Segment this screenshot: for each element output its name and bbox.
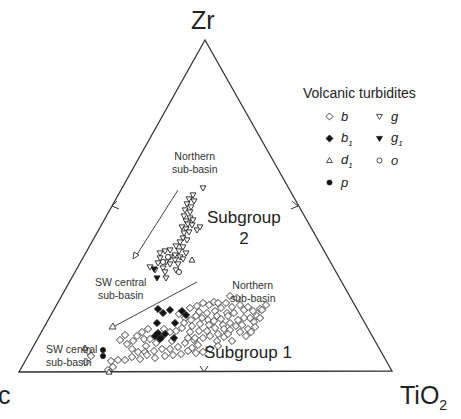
data-point-b <box>114 356 121 363</box>
data-point-g <box>181 214 187 219</box>
data-point-g <box>167 262 173 267</box>
data-point-b <box>151 354 158 361</box>
data-point-g <box>200 186 206 191</box>
legend-label: g1 <box>391 130 403 148</box>
data-point-g <box>187 210 193 215</box>
arrowhead-icon <box>109 323 116 329</box>
data-point-b <box>128 353 135 360</box>
data-point-p <box>100 353 105 358</box>
data-point-b <box>121 331 128 338</box>
legend-item-g: g <box>375 109 425 124</box>
legend-item-o: o <box>375 153 425 168</box>
data-point-b <box>150 347 157 354</box>
open-diamond-icon <box>325 112 334 121</box>
open-triangle-down-icon <box>375 112 384 121</box>
legend-label: b1 <box>341 130 353 148</box>
trend-arrow-subgroup2-line <box>136 190 178 256</box>
legend-label: p <box>341 175 348 190</box>
data-point-b1 <box>153 319 160 326</box>
data-point-b <box>161 352 168 359</box>
data-point-b <box>158 345 165 352</box>
data-point-b <box>121 356 128 363</box>
vertex-label-top: Zr <box>191 8 215 33</box>
legend-title: Volcanic turbidites <box>303 85 461 101</box>
data-point-o <box>165 254 170 259</box>
legend-label: b <box>341 109 348 124</box>
legend-item-b: b <box>325 109 375 124</box>
vertex-label-right: TiO2 <box>400 383 447 412</box>
vertex-label-right-main: TiO <box>400 381 439 409</box>
legend-item-d1: d1 <box>325 153 375 168</box>
annotation-line: Northern <box>172 150 218 163</box>
legend-item-b1: b1 <box>325 131 375 146</box>
legend-item-g1: g1 <box>375 131 425 146</box>
open-triangle-up-icon <box>325 156 334 165</box>
subgroup-1-label: Subgroup 1 <box>204 342 292 363</box>
data-point-b <box>116 336 123 343</box>
left-edge-tick <box>112 201 119 209</box>
data-point-o <box>176 269 181 274</box>
data-point-g <box>173 244 179 249</box>
annotation-northern-lower: Northern sub-basin <box>230 279 276 305</box>
data-point-b <box>199 334 206 341</box>
ternary-diagram: Zr c TiO2 Northern sub-basin SW central … <box>0 0 461 419</box>
data-point-b <box>203 309 210 316</box>
annotation-line: sub-basin <box>46 356 97 369</box>
annotation-line: Northern <box>230 279 276 292</box>
vertex-label-right-sub: 2 <box>439 397 447 413</box>
data-point-b <box>222 299 229 306</box>
subgroup-2-line2: 2 <box>207 228 281 249</box>
data-point-g <box>175 262 181 267</box>
subgroup-2-label: Subgroup 2 <box>207 207 281 249</box>
data-point-g <box>162 270 168 275</box>
data-point-b <box>136 355 143 362</box>
legend-item-p: p <box>325 175 375 190</box>
data-point-b <box>236 328 243 335</box>
data-point-g <box>191 199 197 204</box>
data-point-b <box>186 304 193 311</box>
annotation-line: sub-basin <box>230 292 276 305</box>
data-point-p <box>100 347 105 352</box>
data-point-b <box>174 343 181 350</box>
data-point-o <box>160 259 165 264</box>
open-circle-icon <box>375 156 384 165</box>
filled-triangle-down-icon <box>375 134 384 143</box>
annotation-line: SW central <box>95 276 146 289</box>
annotation-line: SW central <box>46 343 97 356</box>
legend: Volcanic turbidites bgb1g1d1op <box>303 85 461 190</box>
annotation-northern-upper: Northern sub-basin <box>172 150 218 176</box>
data-point-g <box>189 223 195 228</box>
data-point-g <box>183 251 189 256</box>
annotation-sw-central-lower: SW central sub-basin <box>46 343 97 369</box>
filled-circle-icon <box>325 178 334 187</box>
data-point-b <box>195 327 202 334</box>
legend-entries: bgb1g1d1op <box>325 109 461 190</box>
data-point-g <box>180 257 186 262</box>
data-point-d1 <box>189 257 195 262</box>
data-point-b1 <box>171 319 178 326</box>
data-point-g1 <box>154 276 160 281</box>
legend-label: o <box>391 153 398 168</box>
legend-label: g <box>391 109 398 124</box>
vertex-label-left: c <box>0 383 11 408</box>
data-point-g <box>157 251 163 256</box>
data-point-g <box>163 276 169 281</box>
annotation-line: sub-basin <box>95 289 146 302</box>
data-point-g <box>184 238 190 243</box>
data-point-b <box>142 342 149 349</box>
legend-label: d1 <box>341 152 353 170</box>
subgroup-2-line1: Subgroup <box>207 207 281 228</box>
data-point-g <box>186 230 192 235</box>
data-point-g <box>188 205 194 210</box>
data-point-g <box>181 231 187 236</box>
data-point-b <box>177 350 184 357</box>
annotation-sw-central-upper: SW central sub-basin <box>95 276 146 302</box>
data-point-b1 <box>166 306 173 313</box>
annotation-line: sub-basin <box>172 163 218 176</box>
filled-diamond-icon <box>325 134 334 143</box>
